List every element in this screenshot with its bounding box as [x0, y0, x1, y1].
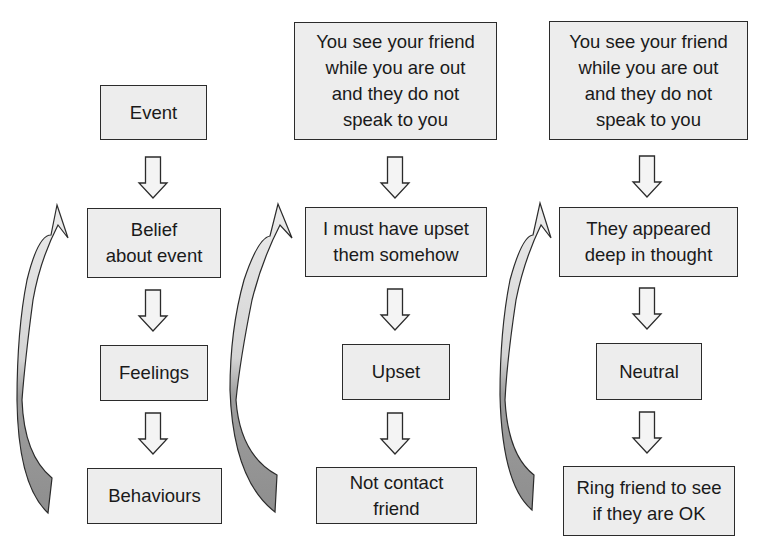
- feelings-box: Neutral: [596, 343, 702, 400]
- feedback-curve-arrow-icon: [17, 205, 68, 513]
- down-arrow-icon: [633, 412, 661, 453]
- feedback-curve-arrow-icon: [500, 203, 551, 510]
- down-arrow-icon: [139, 290, 167, 331]
- event-box: You see your friend while you are out an…: [294, 22, 497, 140]
- down-arrow-icon: [633, 156, 661, 197]
- behaviours-box: Ring friend to see if they are OK: [563, 466, 735, 536]
- belief-box: Belief about event: [87, 208, 221, 278]
- behaviours-box: Not contact friend: [316, 467, 477, 524]
- down-arrow-icon: [381, 413, 409, 454]
- event-box: You see your friend while you are out an…: [549, 21, 748, 140]
- down-arrow-icon: [381, 289, 409, 330]
- behaviours-box: Behaviours: [87, 468, 222, 524]
- feelings-box: Upset: [342, 344, 450, 400]
- feelings-box: Feelings: [100, 345, 208, 401]
- down-arrow-icon: [633, 288, 661, 329]
- down-arrow-icon: [139, 413, 167, 454]
- down-arrow-icon: [381, 157, 409, 198]
- belief-box: They appeared deep in thought: [559, 207, 738, 277]
- down-arrow-icon: [139, 157, 167, 198]
- belief-box: I must have upset them somehow: [305, 207, 487, 277]
- event-box: Event: [100, 85, 207, 140]
- feedback-curve-arrow-icon: [230, 204, 292, 512]
